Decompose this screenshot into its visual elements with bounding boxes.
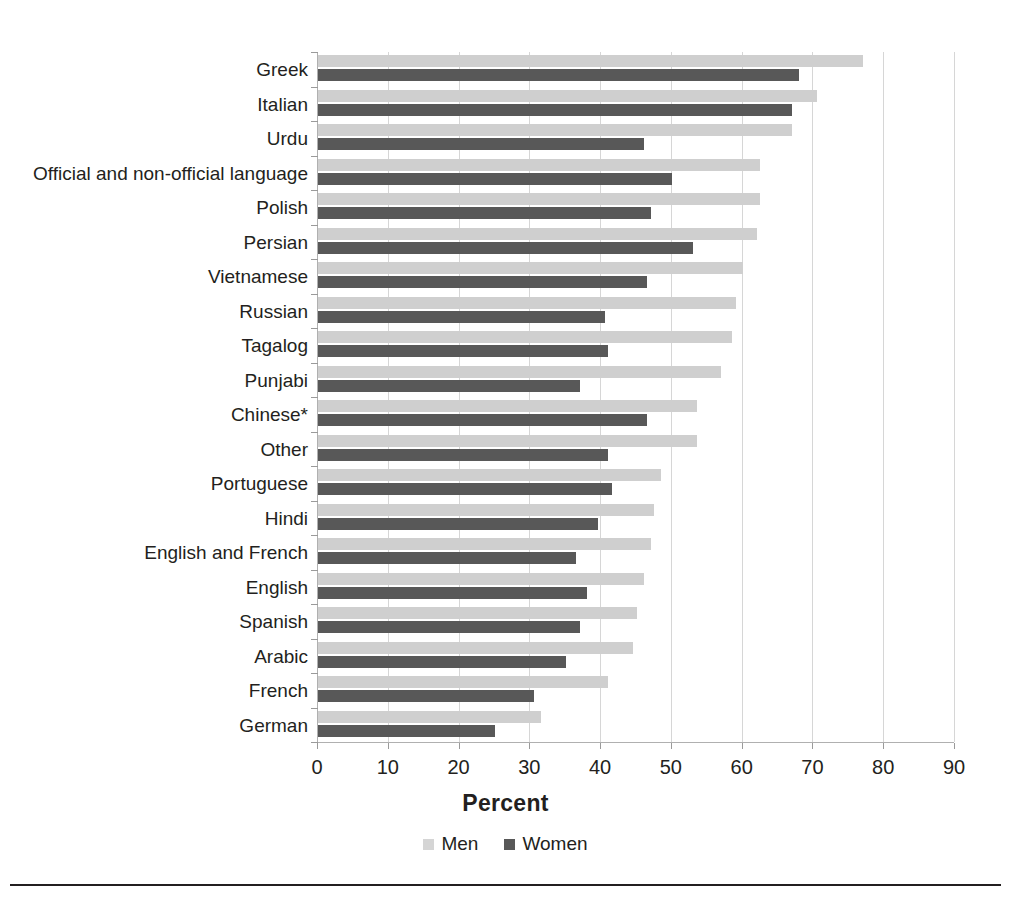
bar-row: Italian bbox=[0, 87, 1011, 122]
x-tick-label-0: 0 bbox=[311, 756, 322, 779]
category-label-english-and-french: English and French bbox=[144, 543, 308, 562]
bar-women bbox=[318, 552, 576, 564]
legend-item-women[interactable]: Women bbox=[504, 833, 587, 855]
x-tick-label-50: 50 bbox=[660, 756, 682, 779]
category-label-english: English bbox=[246, 578, 308, 597]
x-tick-40 bbox=[600, 743, 601, 749]
bar-women bbox=[318, 621, 580, 633]
y-tick bbox=[311, 708, 318, 709]
y-tick bbox=[311, 363, 318, 364]
x-tick-60 bbox=[742, 743, 743, 749]
bar-men bbox=[318, 366, 721, 378]
bar-row: Hindi bbox=[0, 501, 1011, 536]
bar-row: Arabic bbox=[0, 639, 1011, 674]
x-axis-title: Percent bbox=[0, 790, 1011, 817]
bar-men bbox=[318, 607, 637, 619]
y-tick bbox=[311, 535, 318, 536]
category-label-italian: Italian bbox=[257, 95, 308, 114]
bar-women bbox=[318, 587, 587, 599]
bar-row: Vietnamese bbox=[0, 259, 1011, 294]
bar-men bbox=[318, 711, 541, 723]
bar-row: Urdu bbox=[0, 121, 1011, 156]
legend-label-women: Women bbox=[522, 833, 587, 855]
x-tick-label-20: 20 bbox=[447, 756, 469, 779]
y-tick bbox=[311, 639, 318, 640]
bar-women bbox=[318, 380, 580, 392]
x-tick-20 bbox=[459, 743, 460, 749]
bar-men bbox=[318, 124, 792, 136]
category-label-hindi: Hindi bbox=[265, 509, 308, 528]
bar-women bbox=[318, 69, 799, 81]
bar-women bbox=[318, 656, 566, 668]
bar-row: Official and non-official language bbox=[0, 156, 1011, 191]
bar-women bbox=[318, 311, 605, 323]
y-tick bbox=[311, 225, 318, 226]
y-tick bbox=[311, 52, 318, 53]
bar-women bbox=[318, 483, 612, 495]
x-tick-30 bbox=[529, 743, 530, 749]
x-tick-label-80: 80 bbox=[872, 756, 894, 779]
category-label-persian: Persian bbox=[244, 233, 308, 252]
x-axis-line bbox=[317, 742, 954, 743]
bar-men bbox=[318, 573, 644, 585]
y-tick bbox=[311, 604, 318, 605]
category-label-german: German bbox=[239, 716, 308, 735]
category-label-russian: Russian bbox=[239, 302, 308, 321]
category-label-french: French bbox=[249, 681, 308, 700]
x-tick-70 bbox=[812, 743, 813, 749]
bar-row: Russian bbox=[0, 294, 1011, 329]
bar-men bbox=[318, 262, 743, 274]
y-tick bbox=[311, 570, 318, 571]
bar-row: Punjabi bbox=[0, 363, 1011, 398]
y-tick bbox=[311, 259, 318, 260]
bar-men bbox=[318, 435, 697, 447]
category-label-chinese: Chinese* bbox=[231, 405, 308, 424]
category-label-official-and-non-official-language: Official and non-official language bbox=[33, 164, 308, 183]
bar-men bbox=[318, 469, 661, 481]
bar-row: Other bbox=[0, 432, 1011, 467]
category-label-polish: Polish bbox=[256, 198, 308, 217]
bar-row: Greek bbox=[0, 52, 1011, 87]
y-tick bbox=[311, 501, 318, 502]
x-tick-label-90: 90 bbox=[943, 756, 965, 779]
bar-men bbox=[318, 90, 817, 102]
bar-women bbox=[318, 173, 672, 185]
legend-item-men[interactable]: Men bbox=[423, 833, 478, 855]
y-tick bbox=[311, 742, 318, 743]
bar-women bbox=[318, 104, 792, 116]
bar-row: Portuguese bbox=[0, 466, 1011, 501]
bar-women bbox=[318, 138, 644, 150]
bar-row: Polish bbox=[0, 190, 1011, 225]
bar-women bbox=[318, 518, 598, 530]
chart-figure: 0102030405060708090 GreekItalianUrduOffi… bbox=[0, 0, 1011, 899]
y-tick bbox=[311, 328, 318, 329]
bar-row: English and French bbox=[0, 535, 1011, 570]
bar-men bbox=[318, 676, 608, 688]
legend-swatch-women-icon bbox=[504, 839, 515, 850]
bar-row: English bbox=[0, 570, 1011, 605]
bar-women bbox=[318, 414, 647, 426]
x-tick-80 bbox=[883, 743, 884, 749]
bar-women bbox=[318, 449, 608, 461]
x-tick-label-60: 60 bbox=[731, 756, 753, 779]
category-label-arabic: Arabic bbox=[254, 647, 308, 666]
x-tick-0 bbox=[317, 743, 318, 749]
y-tick bbox=[311, 432, 318, 433]
y-tick bbox=[311, 121, 318, 122]
category-label-other: Other bbox=[260, 440, 308, 459]
category-label-urdu: Urdu bbox=[267, 129, 308, 148]
bar-men bbox=[318, 331, 732, 343]
legend-label-men: Men bbox=[441, 833, 478, 855]
bar-row: Chinese* bbox=[0, 397, 1011, 432]
bar-men bbox=[318, 297, 736, 309]
bar-men bbox=[318, 504, 654, 516]
x-tick-90 bbox=[954, 743, 955, 749]
x-tick-10 bbox=[388, 743, 389, 749]
bar-men bbox=[318, 538, 651, 550]
footer-divider bbox=[10, 884, 1001, 886]
y-tick bbox=[311, 294, 318, 295]
legend-swatch-men-icon bbox=[423, 839, 434, 850]
bar-row: German bbox=[0, 708, 1011, 743]
bar-men bbox=[318, 55, 863, 67]
category-label-spanish: Spanish bbox=[239, 612, 308, 631]
